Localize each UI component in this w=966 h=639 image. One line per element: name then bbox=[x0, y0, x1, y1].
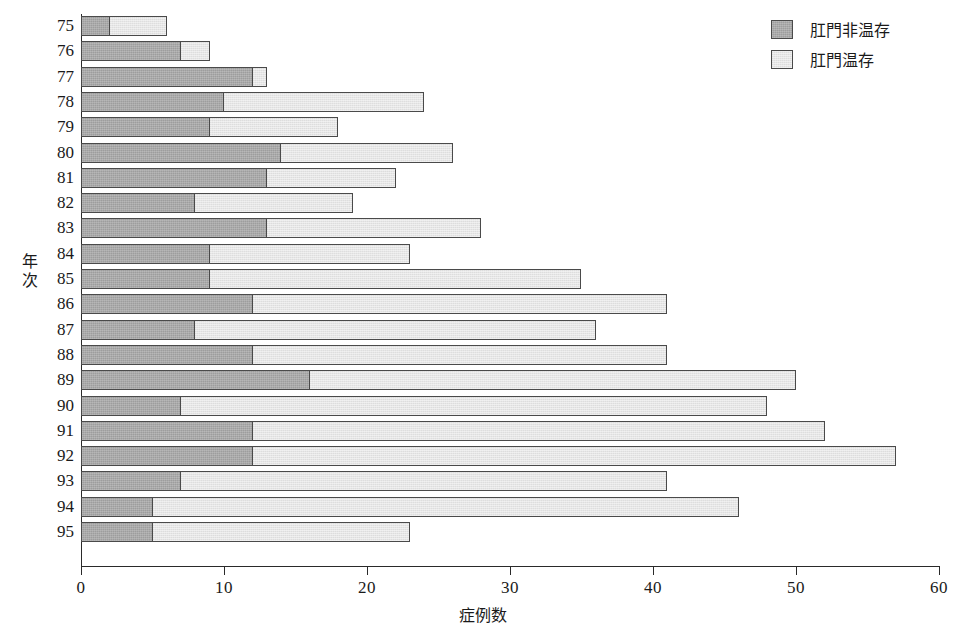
y-category-label-wrap: 90 bbox=[22, 396, 74, 416]
y-category-label-94: 94 bbox=[30, 497, 74, 517]
bar-segment-light bbox=[180, 41, 210, 61]
bar-segment-dark bbox=[81, 16, 110, 36]
bar-segment-dark bbox=[81, 269, 210, 289]
bar-segment-light bbox=[180, 471, 667, 491]
x-tick-label-10: 10 bbox=[215, 578, 233, 598]
y-category-label-93: 93 bbox=[30, 471, 74, 491]
bar-segment-dark bbox=[81, 421, 253, 441]
bar-segment-light bbox=[252, 421, 825, 441]
y-category-label-wrap: 76 bbox=[22, 41, 74, 61]
x-tick-0 bbox=[81, 567, 82, 575]
bar-segment-light bbox=[252, 294, 668, 314]
bar-segment-light bbox=[180, 396, 767, 416]
y-category-label-84: 84 bbox=[30, 244, 74, 264]
bar-segment-dark bbox=[81, 168, 267, 188]
x-tick-30 bbox=[510, 567, 511, 575]
legend-swatch-light-icon bbox=[771, 50, 793, 69]
bar-segment-light bbox=[152, 497, 739, 517]
y-category-label-wrap: 85 bbox=[22, 269, 74, 289]
bar-segment-dark bbox=[81, 143, 281, 163]
x-tick-20 bbox=[367, 567, 368, 575]
y-category-label-87: 87 bbox=[30, 320, 74, 340]
y-category-label-wrap: 93 bbox=[22, 471, 74, 491]
bar-segment-dark bbox=[81, 471, 181, 491]
legend: 肛門非温存 肛門温存 bbox=[771, 14, 961, 74]
y-category-label-78: 78 bbox=[30, 92, 74, 112]
legend-label-1: 肛門温存 bbox=[810, 47, 874, 71]
y-category-label-wrap: 78 bbox=[22, 92, 74, 112]
legend-label-0: 肛門非温存 bbox=[810, 17, 890, 41]
y-category-label-wrap: 88 bbox=[22, 345, 74, 365]
x-tick-50 bbox=[796, 567, 797, 575]
y-category-label-wrap: 80 bbox=[22, 143, 74, 163]
bar-segment-light bbox=[109, 16, 167, 36]
bar-segment-dark bbox=[81, 218, 267, 238]
stacked-bar-chart: 年 次 0102030405060 7576777879808182838485… bbox=[0, 0, 966, 639]
y-category-label-95: 95 bbox=[30, 522, 74, 542]
bar-segment-dark bbox=[81, 497, 153, 517]
bar-segment-dark bbox=[81, 522, 153, 542]
bar-segment-dark bbox=[81, 396, 181, 416]
bar-segment-light bbox=[252, 67, 267, 87]
bar-segment-light bbox=[209, 117, 339, 137]
y-category-label-wrap: 79 bbox=[22, 117, 74, 137]
y-category-label-82: 82 bbox=[30, 193, 74, 213]
x-tick-label-60: 60 bbox=[930, 578, 948, 598]
bar-segment-dark bbox=[81, 370, 310, 390]
y-category-label-wrap: 83 bbox=[22, 218, 74, 238]
bar-segment-dark bbox=[81, 193, 195, 213]
bar-segment-light bbox=[209, 269, 582, 289]
bar-segment-light bbox=[209, 244, 410, 264]
y-category-label-wrap: 77 bbox=[22, 67, 74, 87]
legend-item-1: 肛門温存 bbox=[771, 44, 961, 74]
y-category-label-wrap: 84 bbox=[22, 244, 74, 264]
bar-segment-dark bbox=[81, 320, 195, 340]
x-axis-title: 症例数 bbox=[0, 602, 966, 626]
bar-segment-dark bbox=[81, 345, 253, 365]
bar-segment-dark bbox=[81, 294, 253, 314]
y-category-label-wrap: 89 bbox=[22, 370, 74, 390]
bar-segment-light bbox=[223, 92, 424, 112]
y-category-label-wrap: 94 bbox=[22, 497, 74, 517]
bar-segment-light bbox=[309, 370, 796, 390]
y-category-label-wrap: 75 bbox=[22, 16, 74, 36]
bar-segment-light bbox=[266, 168, 396, 188]
y-category-label-wrap: 82 bbox=[22, 193, 74, 213]
bar-segment-light bbox=[152, 522, 410, 542]
y-category-label-wrap: 81 bbox=[22, 168, 74, 188]
bar-segment-dark bbox=[81, 67, 253, 87]
y-category-label-wrap: 92 bbox=[22, 446, 74, 466]
y-category-label-77: 77 bbox=[30, 67, 74, 87]
y-category-label-85: 85 bbox=[30, 269, 74, 289]
y-category-label-80: 80 bbox=[30, 143, 74, 163]
y-category-label-91: 91 bbox=[30, 421, 74, 441]
bar-segment-dark bbox=[81, 41, 181, 61]
y-category-label-79: 79 bbox=[30, 117, 74, 137]
bar-segment-light bbox=[194, 193, 352, 213]
y-category-label-wrap: 87 bbox=[22, 320, 74, 340]
legend-item-0: 肛門非温存 bbox=[771, 14, 961, 44]
bar-segment-dark bbox=[81, 244, 210, 264]
y-category-label-86: 86 bbox=[30, 294, 74, 314]
legend-swatch-dark-icon bbox=[771, 20, 793, 39]
y-category-label-wrap: 86 bbox=[22, 294, 74, 314]
x-tick-label-40: 40 bbox=[644, 578, 662, 598]
y-category-label-wrap: 95 bbox=[22, 522, 74, 542]
y-category-label-75: 75 bbox=[30, 16, 74, 36]
bar-segment-light bbox=[194, 320, 595, 340]
y-category-label-76: 76 bbox=[30, 41, 74, 61]
x-tick-label-20: 20 bbox=[358, 578, 376, 598]
bar-segment-dark bbox=[81, 117, 210, 137]
y-category-label-83: 83 bbox=[30, 218, 74, 238]
bar-segment-dark bbox=[81, 92, 224, 112]
x-tick-10 bbox=[224, 567, 225, 575]
bar-segment-light bbox=[252, 446, 897, 466]
x-tick-40 bbox=[653, 567, 654, 575]
x-tick-label-50: 50 bbox=[787, 578, 805, 598]
x-tick-label-30: 30 bbox=[501, 578, 519, 598]
y-category-label-81: 81 bbox=[30, 168, 74, 188]
y-category-label-92: 92 bbox=[30, 446, 74, 466]
y-category-label-wrap: 91 bbox=[22, 421, 74, 441]
y-category-label-88: 88 bbox=[30, 345, 74, 365]
x-tick-60 bbox=[939, 567, 940, 575]
